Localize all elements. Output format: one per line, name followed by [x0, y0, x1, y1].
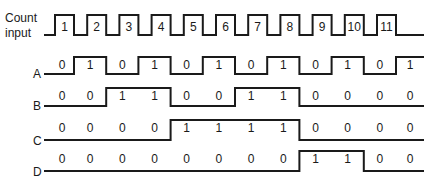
clock-pulse-number: 7 [254, 20, 261, 34]
clock-pulse-number: 4 [158, 20, 165, 34]
signal-value: 0 [87, 89, 94, 103]
signal-value: 1 [312, 152, 319, 166]
timing-diagram: Count input 1234567891011 A 010101010101… [0, 0, 437, 183]
clock-pulse-number: 5 [190, 20, 197, 34]
clock-pulse-number: 2 [93, 20, 100, 34]
signal-value: 0 [344, 121, 351, 135]
signal-label-a: A [33, 67, 41, 81]
signal-value: 0 [151, 121, 158, 135]
signal-value: 0 [119, 121, 126, 135]
signal-a-values: 010101010101 [59, 58, 414, 72]
signal-value: 1 [119, 89, 126, 103]
signal-value: 0 [119, 152, 126, 166]
signal-value: 1 [344, 58, 351, 72]
signal-a-waveform [44, 57, 424, 74]
signal-value: 0 [377, 152, 384, 166]
signal-b-values: 001100110000 [59, 89, 414, 103]
signal-value: 1 [280, 58, 287, 72]
signal-d-values: 000000001100 [59, 152, 414, 166]
signal-value: 0 [183, 89, 190, 103]
signal-value: 0 [183, 152, 190, 166]
signal-value: 0 [280, 152, 287, 166]
clock-pulse-number: 9 [319, 20, 326, 34]
clock-label-line2: input [5, 26, 32, 40]
signal-value: 1 [407, 58, 414, 72]
signal-c-values: 000011110000 [59, 121, 414, 135]
signal-value: 0 [312, 58, 319, 72]
signal-value: 1 [344, 152, 351, 166]
clock-pulse-number: 10 [348, 20, 362, 34]
signal-value: 1 [248, 89, 255, 103]
signal-value: 0 [248, 152, 255, 166]
signal-c-waveform [44, 120, 424, 140]
signal-value: 1 [248, 121, 255, 135]
signal-value: 0 [59, 58, 66, 72]
signal-row-b: B 001100110000 [33, 88, 424, 113]
signal-value: 0 [87, 152, 94, 166]
clock-pulse-numbers: 1234567891011 [61, 20, 393, 34]
clock-waveform [44, 15, 424, 35]
clock-pulse-number: 1 [61, 20, 68, 34]
signal-value: 0 [344, 89, 351, 103]
signal-label-d: D [33, 165, 42, 179]
signal-value: 0 [407, 152, 414, 166]
signal-value: 0 [377, 89, 384, 103]
signal-label-b: B [33, 99, 41, 113]
signal-value: 0 [248, 58, 255, 72]
signal-value: 0 [183, 58, 190, 72]
signal-value: 0 [87, 121, 94, 135]
clock-label-line1: Count [5, 11, 38, 25]
signal-value: 0 [312, 121, 319, 135]
signal-value: 1 [151, 58, 158, 72]
signal-value: 0 [59, 152, 66, 166]
signal-value: 0 [407, 89, 414, 103]
signal-value: 0 [216, 89, 223, 103]
clock-pulse-number: 8 [287, 20, 294, 34]
signal-value: 1 [280, 89, 287, 103]
signal-row-c: C 000011110000 [33, 120, 424, 148]
signal-value: 0 [59, 89, 66, 103]
signal-value: 1 [183, 121, 190, 135]
signal-row-d: D 000000001100 [33, 151, 424, 179]
signal-value: 0 [407, 121, 414, 135]
signal-value: 0 [216, 152, 223, 166]
signal-value: 1 [151, 89, 158, 103]
signal-value: 1 [216, 58, 223, 72]
signal-b-waveform [44, 88, 424, 106]
signal-value: 0 [377, 58, 384, 72]
signal-value: 0 [151, 152, 158, 166]
clock-pulse-number: 3 [126, 20, 133, 34]
signal-row-a: A 010101010101 [33, 57, 424, 81]
signal-value: 1 [87, 58, 94, 72]
signal-value: 0 [312, 89, 319, 103]
clock-pulse-number: 6 [222, 20, 229, 34]
signal-value: 0 [59, 121, 66, 135]
signal-value: 0 [119, 58, 126, 72]
clock-pulse-number: 11 [380, 20, 393, 34]
signal-value: 0 [377, 121, 384, 135]
signal-value: 1 [216, 121, 223, 135]
signal-d-waveform [44, 151, 424, 171]
signal-label-c: C [33, 134, 42, 148]
signal-value: 1 [280, 121, 287, 135]
